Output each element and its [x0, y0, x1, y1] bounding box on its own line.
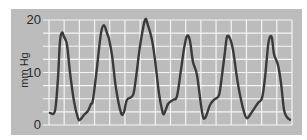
y-axis-label: mm Hg: [18, 50, 30, 90]
y-tick-20: 20: [21, 12, 41, 27]
chart-plot-area: [0, 0, 307, 140]
y-tick-0: 0: [21, 117, 41, 132]
